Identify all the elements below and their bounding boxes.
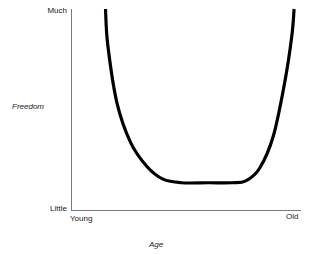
freedom-curve-line — [106, 9, 295, 183]
freedom-vs-age-chart: Much Little Young Old Freedom Age — [0, 0, 312, 255]
curve-canvas — [0, 0, 312, 255]
